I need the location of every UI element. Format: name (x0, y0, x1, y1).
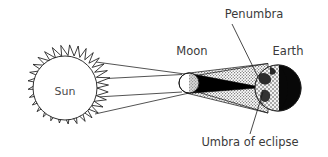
sun-label: Sun (55, 85, 76, 98)
penumbra-label: Penumbra (225, 7, 283, 21)
moon-label: Moon (176, 44, 207, 58)
umbra-label: Umbra of eclipse (201, 135, 298, 149)
eclipse-diagram-canvas: Sun (0, 0, 328, 157)
earth-label: Earth (273, 44, 304, 58)
eclipse-diagram: Sun (0, 0, 328, 157)
